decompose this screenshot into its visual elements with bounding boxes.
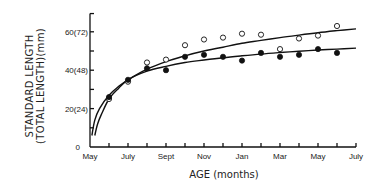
x-tick-label: Mar xyxy=(273,152,287,161)
filled-data-point xyxy=(201,52,206,57)
fitted-curves xyxy=(92,29,356,136)
x-tick-label: May xyxy=(310,152,325,161)
y-tick-label: 20(24) xyxy=(65,105,88,114)
open-data-point xyxy=(163,57,168,62)
data-points xyxy=(106,23,339,101)
open-data-point xyxy=(182,43,187,48)
open-data-point xyxy=(239,31,244,36)
open-data-point xyxy=(201,37,206,42)
y-axis-label-line1: STANDARD LENGTH xyxy=(24,34,35,137)
open-data-point xyxy=(315,33,320,38)
filled-data-point xyxy=(239,58,244,63)
open-data-point xyxy=(277,47,282,52)
filled-data-point xyxy=(334,50,339,55)
y-tick-label: 40(48) xyxy=(65,66,88,75)
x-tick-label: Nov xyxy=(197,152,211,161)
filled-data-point xyxy=(125,77,130,82)
filled-data-point xyxy=(163,68,168,73)
x-tick-label: July xyxy=(349,152,363,161)
filled-data-point xyxy=(277,54,282,59)
fit-curve-upper xyxy=(92,29,356,136)
open-data-point xyxy=(334,23,339,28)
x-tick-label: May xyxy=(82,152,97,161)
filled-data-point xyxy=(106,95,111,100)
y-tick-label: 60(72) xyxy=(65,28,88,37)
open-data-point xyxy=(220,35,225,40)
y-axis-title: STANDARD LENGTH (TOTAL LENGTH)(mm) xyxy=(24,28,46,144)
x-tick-label: Jan xyxy=(236,152,249,161)
filled-data-point xyxy=(220,54,225,59)
x-axis-label: AGE (months) xyxy=(189,169,258,180)
filled-data-point xyxy=(315,47,320,52)
y-tick-label: 0 xyxy=(76,143,81,152)
filled-data-point xyxy=(144,66,149,71)
open-data-point xyxy=(144,60,149,65)
growth-chart: STANDARD LENGTH (TOTAL LENGTH)(mm) 020(2… xyxy=(0,0,382,188)
filled-data-point xyxy=(296,52,301,57)
y-axis-label-line2: (TOTAL LENGTH)(mm) xyxy=(35,28,46,144)
x-tick-label: Sept xyxy=(158,152,175,161)
filled-data-point xyxy=(258,50,263,55)
x-tick-label: July xyxy=(121,152,135,161)
filled-data-point xyxy=(182,54,187,59)
x-ticks: MayJulySeptNovJanMarMayJuly xyxy=(82,143,363,161)
open-data-point xyxy=(296,36,301,41)
fit-curve-lower xyxy=(95,48,356,135)
open-data-point xyxy=(258,32,263,37)
